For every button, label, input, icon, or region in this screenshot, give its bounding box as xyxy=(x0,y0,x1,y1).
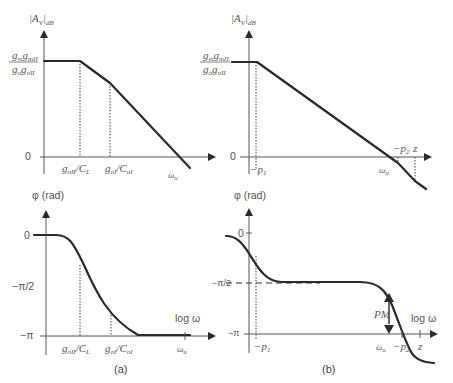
x-marker-omega-u: ωu xyxy=(168,170,178,182)
phase-margin-label: PM xyxy=(373,308,391,320)
zero-db-label: 0 xyxy=(230,150,236,162)
phase-curve xyxy=(34,235,190,335)
x-axis-arrow-icon xyxy=(424,153,432,161)
y-tick-minus-pi: −π xyxy=(20,329,33,341)
dc-gain-denominator: gogoII xyxy=(203,63,226,77)
y-axis-label: |AV|dB xyxy=(29,12,55,27)
x-marker-goII-CL: goII/CL xyxy=(62,342,90,356)
y-axis-arrow-icon xyxy=(42,210,50,218)
x-marker-goI-CoI: goI/CoI xyxy=(105,342,133,356)
y-axis-arrow-icon xyxy=(245,30,253,38)
panel-a-phase-plot: φ (rad) 0 −π/2 −π log ω goII/CL goI/CoI … xyxy=(12,189,216,375)
x-marker-goI-CoI: goI/CoI xyxy=(105,162,133,176)
panel-a-magnitude-plot: |AV|dB gmgmII gogoII 0 goII/CL goI/CoI ω… xyxy=(9,12,216,182)
x-axis-arrow-icon xyxy=(208,332,216,340)
y-axis-arrow-icon xyxy=(245,208,253,216)
x-marker-p1: −p1 xyxy=(254,340,270,354)
y-axis-arrow-icon xyxy=(40,30,48,38)
x-marker-goII-CL: goII/CL xyxy=(62,162,90,176)
y-tick-minus-pi: −π xyxy=(228,328,239,338)
x-axis-label: log ω xyxy=(411,312,436,324)
pm-down-arrow-icon xyxy=(384,325,394,334)
magnitude-curve xyxy=(44,61,190,168)
x-marker-p1: −p1 xyxy=(250,163,266,177)
y-axis-label: |AV|dB xyxy=(231,12,257,27)
x-marker-z: z xyxy=(417,340,423,352)
dc-gain-numerator: gmgmII xyxy=(12,49,38,63)
x-marker-p2: −p2 xyxy=(393,142,410,156)
x-axis-arrow-icon xyxy=(208,153,216,161)
x-axis-label: log ω xyxy=(175,312,200,324)
y-tick-0: 0 xyxy=(238,227,244,239)
x-marker-omega-u: ωu xyxy=(177,344,187,356)
dc-gain-denominator: gogoII xyxy=(12,63,35,77)
bode-plots-figure: |AV|dB gmgmII gogoII 0 goII/CL goI/CoI ω… xyxy=(0,0,453,383)
x-marker-omega-u: ωu xyxy=(376,342,386,354)
y-tick-minus-pi-half: −π/2 xyxy=(12,280,34,292)
caption-a: (a) xyxy=(114,363,127,375)
caption-b: (b) xyxy=(322,363,335,375)
y-axis-label: φ (rad) xyxy=(234,189,266,201)
zero-db-label: 0 xyxy=(25,150,31,162)
panel-b-phase-plot: φ (rad) 0 −π/2 −π PM log ω −p1 ωu −p2 z … xyxy=(212,189,438,375)
x-marker-omega-u: ωu xyxy=(379,165,389,177)
y-axis-label: φ (rad) xyxy=(32,189,64,201)
panel-b-magnitude-plot: |AV|dB gmgmII gogoII 0 −p1 ωu −p2 z xyxy=(200,12,432,189)
x-axis-arrow-icon xyxy=(430,330,438,338)
dc-gain-numerator: gmgmII xyxy=(203,49,229,63)
x-marker-z: z xyxy=(412,142,418,154)
dc-gain-label: gmgmII gogoII xyxy=(200,49,230,77)
y-tick-0: 0 xyxy=(24,229,30,241)
dc-gain-label: gmgmII gogoII xyxy=(9,49,38,77)
